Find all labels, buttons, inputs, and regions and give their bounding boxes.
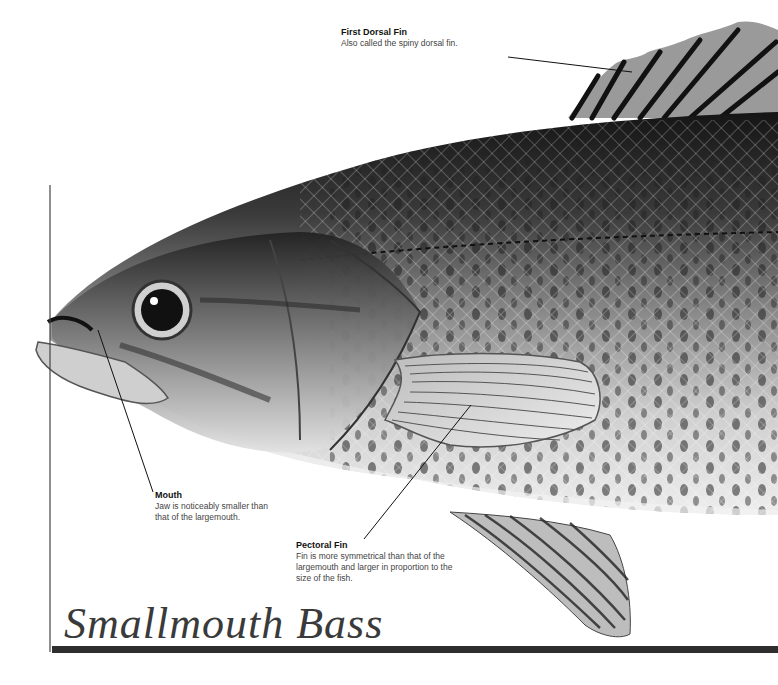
callout-title: First Dorsal Fin [341,27,458,38]
callout-title: Pectoral Fin [296,540,452,551]
callout-desc-line: Jaw is noticeably smaller than [155,501,268,512]
dorsal-leader-line [508,57,632,72]
diagram-title: Smallmouth Bass [64,598,383,649]
callout-desc-line: largemouth and larger in proportion to t… [296,562,452,573]
diagram-canvas: First Dorsal Fin Also called the spiny d… [0,0,778,685]
callout-desc-line: size of the fish. [296,573,452,584]
callout-pectoral-fin: Pectoral Fin Fin is more symmetrical tha… [296,540,452,584]
callout-first-dorsal-fin: First Dorsal Fin Also called the spiny d… [341,27,458,49]
callout-desc-line: that of the largemouth. [155,512,268,523]
callout-mouth: Mouth Jaw is noticeably smaller than tha… [155,490,268,523]
callout-desc-line: Fin is more symmetrical than that of the [296,551,452,562]
callout-title: Mouth [155,490,268,501]
first-dorsal-fin-shape [568,21,778,118]
pelvic-fin-shape [450,512,630,637]
pectoral-fin-shape [385,354,600,448]
callout-desc: Also called the spiny dorsal fin. [341,38,458,49]
